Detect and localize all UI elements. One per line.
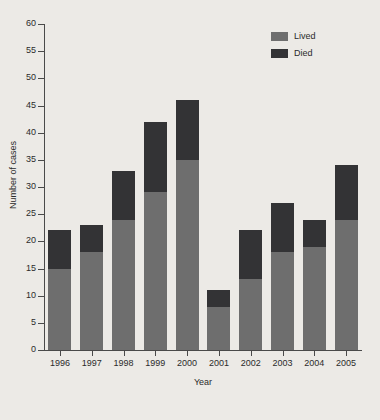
x-axis-tick: [314, 351, 315, 356]
y-axis-tick-label: 10: [0, 291, 36, 301]
bar-segment-lived[interactable]: [176, 160, 199, 350]
y-axis-tick-label: 50: [0, 73, 36, 83]
y-axis-tick-label: 0: [0, 345, 36, 355]
y-axis-tick-label: 35: [0, 155, 36, 165]
bar-segment-lived[interactable]: [80, 252, 103, 350]
bar-segment-died[interactable]: [112, 171, 135, 220]
bar-group[interactable]: [48, 230, 71, 350]
bar-segment-died[interactable]: [335, 165, 358, 219]
bar-group[interactable]: [112, 171, 135, 350]
bar-segment-lived[interactable]: [144, 192, 167, 350]
x-axis-tick: [92, 351, 93, 356]
bar-segment-died[interactable]: [239, 230, 262, 279]
bar-segment-lived[interactable]: [48, 269, 71, 351]
y-axis-tick-label-text: 45: [2, 101, 36, 110]
bar-segment-lived[interactable]: [239, 279, 262, 350]
y-axis-title: Number of cases: [8, 115, 18, 235]
bar-segment-lived[interactable]: [207, 307, 230, 350]
y-axis-tick-label-text: 0: [2, 345, 36, 354]
x-axis-tick: [187, 351, 188, 356]
bar-segment-died[interactable]: [80, 225, 103, 252]
bar-segment-died[interactable]: [176, 100, 199, 160]
x-axis-title: Year: [44, 377, 362, 387]
x-axis-tick: [283, 351, 284, 356]
y-axis-tick-label-text: 10: [2, 291, 36, 300]
bar-group[interactable]: [144, 122, 167, 350]
bar-segment-lived[interactable]: [335, 220, 358, 350]
y-axis-tick: [38, 350, 44, 351]
x-axis-tick: [219, 351, 220, 356]
legend-item-label: Lived: [294, 32, 316, 41]
y-axis-tick-label: 5: [0, 318, 36, 328]
bar-group[interactable]: [239, 230, 262, 350]
y-axis-tick-label: 15: [0, 264, 36, 274]
chart-legend: LivedDied: [271, 29, 316, 63]
bar-group[interactable]: [335, 165, 358, 350]
bar-group[interactable]: [271, 203, 294, 350]
y-axis-tick-label: 55: [0, 46, 36, 56]
legend-item[interactable]: Died: [271, 46, 316, 60]
y-axis-tick-label: 30: [0, 182, 36, 192]
y-axis-tick-label: 40: [0, 128, 36, 138]
y-axis-tick-label-text: 55: [2, 46, 36, 55]
bar-segment-died[interactable]: [207, 290, 230, 306]
legend-swatch-icon: [271, 32, 288, 41]
bar-group[interactable]: [80, 225, 103, 350]
bar-segment-lived[interactable]: [112, 220, 135, 350]
bar-segment-lived[interactable]: [303, 247, 326, 350]
bar-segment-died[interactable]: [303, 220, 326, 247]
x-axis-tick: [60, 351, 61, 356]
legend-swatch-icon: [271, 49, 288, 58]
bar-segment-died[interactable]: [144, 122, 167, 193]
y-axis-tick-label-text: 60: [2, 19, 36, 28]
legend-item-label: Died: [294, 49, 313, 58]
x-axis-tick: [346, 351, 347, 356]
x-axis-tick: [124, 351, 125, 356]
bar-group[interactable]: [176, 100, 199, 350]
bar-group[interactable]: [207, 290, 230, 350]
bar-segment-lived[interactable]: [271, 252, 294, 350]
legend-item[interactable]: Lived: [271, 29, 316, 43]
bar-group[interactable]: [303, 220, 326, 350]
y-axis-tick-label-text: 5: [2, 318, 36, 327]
y-axis-tick-label-text: 50: [2, 73, 36, 82]
x-axis-tick: [155, 351, 156, 356]
plot-area: [44, 24, 362, 350]
x-axis-tick-label: 2005: [326, 359, 366, 368]
y-axis-tick-label: 45: [0, 101, 36, 111]
y-axis-tick-label: 25: [0, 209, 36, 219]
bar-segment-died[interactable]: [271, 203, 294, 252]
y-axis-tick-label: 20: [0, 236, 36, 246]
bar-segment-died[interactable]: [48, 230, 71, 268]
y-axis-tick-label: 60: [0, 19, 36, 29]
y-axis-tick-label-text: 20: [2, 236, 36, 245]
chart-figure: 051015202530354045505560 Number of cases…: [0, 0, 380, 420]
x-axis-tick: [251, 351, 252, 356]
y-axis-tick-label-text: 15: [2, 264, 36, 273]
